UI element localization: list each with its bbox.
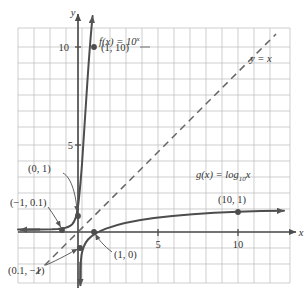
label-identity-line: y = x bbox=[249, 53, 272, 64]
y-axis-label: y bbox=[70, 7, 76, 18]
function-graph: y x 10 5 5 10 f(x) = 10x g(x) = log10x y… bbox=[0, 0, 308, 292]
y-tick-label-10: 10 bbox=[59, 42, 70, 53]
point-10-1 bbox=[235, 209, 241, 215]
point-0-1 bbox=[75, 213, 81, 219]
y-tick-label-5: 5 bbox=[68, 140, 73, 151]
x-tick-label-5: 5 bbox=[155, 239, 160, 250]
point-label-0-1: (0, 1) bbox=[28, 163, 51, 175]
x-axis-label: x bbox=[298, 227, 304, 238]
point-0.1-neg1 bbox=[77, 245, 83, 251]
point-label-0.1-neg1: (0.1, −1) bbox=[8, 265, 45, 277]
point-label-1-10: (1, 10) bbox=[101, 42, 129, 54]
point-label-1-0: (1, 0) bbox=[114, 249, 137, 261]
point-1-0 bbox=[91, 229, 97, 235]
point-label-10-1: (10, 1) bbox=[218, 194, 246, 206]
point-label-neg1-0.1: (−1, 0.1) bbox=[10, 197, 47, 209]
point-1-10 bbox=[91, 44, 97, 50]
logarithmic-label-prefix: g(x) = log bbox=[196, 169, 239, 181]
x-tick-label-10: 10 bbox=[233, 239, 244, 250]
point-neg1-0.1 bbox=[59, 227, 65, 233]
figure-container: y x 10 5 5 10 f(x) = 10x g(x) = log10x y… bbox=[0, 0, 308, 292]
logarithmic-label-arg: x bbox=[245, 169, 251, 180]
